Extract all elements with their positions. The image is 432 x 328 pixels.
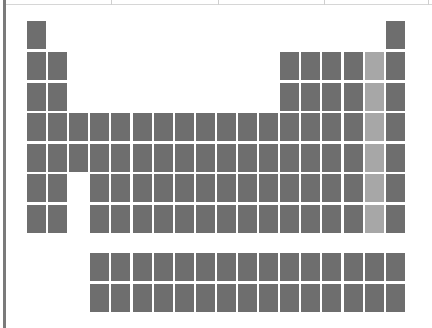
element-cell-p7-g16[interactable] [344, 205, 363, 233]
element-cell-p4-g18[interactable] [386, 113, 405, 141]
element-cell-p4-g8[interactable] [175, 113, 194, 141]
element-cell-p6-g13[interactable] [280, 174, 299, 202]
element-cell-p1-g1[interactable] [27, 21, 46, 49]
element-cell-lanthanides-2[interactable] [111, 253, 130, 281]
element-cell-p4-g10[interactable] [217, 113, 236, 141]
element-cell-p7-g10[interactable] [217, 205, 236, 233]
element-cell-lanthanides-15[interactable] [386, 253, 405, 281]
element-cell-p7-g17[interactable] [365, 205, 384, 233]
element-cell-p4-g3[interactable] [69, 113, 88, 141]
element-cell-actinides-1[interactable] [90, 284, 109, 312]
element-cell-p6-g10[interactable] [217, 174, 236, 202]
element-cell-p5-g7[interactable] [154, 144, 173, 172]
element-cell-actinides-10[interactable] [280, 284, 299, 312]
element-cell-p2-g13[interactable] [280, 52, 299, 80]
element-cell-p7-g2[interactable] [48, 205, 67, 233]
element-cell-p4-g11[interactable] [238, 113, 257, 141]
element-cell-p5-g14[interactable] [301, 144, 320, 172]
element-cell-p7-g5[interactable] [111, 205, 130, 233]
element-cell-p5-g6[interactable] [133, 144, 152, 172]
element-cell-p7-g18[interactable] [386, 205, 405, 233]
element-cell-p4-g14[interactable] [301, 113, 320, 141]
element-cell-actinides-15[interactable] [386, 284, 405, 312]
element-cell-lanthanides-4[interactable] [154, 253, 173, 281]
element-cell-p7-g11[interactable] [238, 205, 257, 233]
element-cell-p1-g18[interactable] [386, 21, 405, 49]
element-cell-p3-g17[interactable] [365, 83, 384, 111]
element-cell-lanthanides-14[interactable] [365, 253, 384, 281]
element-cell-p5-g10[interactable] [217, 144, 236, 172]
element-cell-p4-g9[interactable] [196, 113, 215, 141]
element-cell-p2-g15[interactable] [322, 52, 341, 80]
element-cell-p4-g2[interactable] [48, 113, 67, 141]
element-cell-p6-g17[interactable] [365, 174, 384, 202]
element-cell-p6-g8[interactable] [175, 174, 194, 202]
element-cell-p6-g9[interactable] [196, 174, 215, 202]
element-cell-lanthanides-7[interactable] [217, 253, 236, 281]
element-cell-p3-g14[interactable] [301, 83, 320, 111]
element-cell-p7-g13[interactable] [280, 205, 299, 233]
element-cell-p6-g15[interactable] [322, 174, 341, 202]
element-cell-p7-g6[interactable] [133, 205, 152, 233]
element-cell-p6-g7[interactable] [154, 174, 173, 202]
element-cell-p2-g2[interactable] [48, 52, 67, 80]
element-cell-p5-g15[interactable] [322, 144, 341, 172]
element-cell-actinides-8[interactable] [238, 284, 257, 312]
element-cell-actinides-12[interactable] [322, 284, 341, 312]
element-cell-p6-g4[interactable] [90, 174, 109, 202]
element-cell-p6-g14[interactable] [301, 174, 320, 202]
element-cell-p2-g17[interactable] [365, 52, 384, 80]
element-cell-p3-g2[interactable] [48, 83, 67, 111]
element-cell-lanthanides-1[interactable] [90, 253, 109, 281]
element-cell-p7-g14[interactable] [301, 205, 320, 233]
element-cell-p3-g13[interactable] [280, 83, 299, 111]
element-cell-p5-g2[interactable] [48, 144, 67, 172]
element-cell-p5-g17[interactable] [365, 144, 384, 172]
element-cell-lanthanides-12[interactable] [322, 253, 341, 281]
element-cell-p4-g5[interactable] [111, 113, 130, 141]
element-cell-actinides-14[interactable] [365, 284, 384, 312]
element-cell-p5-g5[interactable] [111, 144, 130, 172]
element-cell-lanthanides-9[interactable] [259, 253, 278, 281]
element-cell-actinides-6[interactable] [196, 284, 215, 312]
element-cell-p7-g9[interactable] [196, 205, 215, 233]
element-cell-p7-g4[interactable] [90, 205, 109, 233]
element-cell-p3-g18[interactable] [386, 83, 405, 111]
element-cell-p2-g16[interactable] [344, 52, 363, 80]
element-cell-p5-g18[interactable] [386, 144, 405, 172]
element-cell-p6-g2[interactable] [48, 174, 67, 202]
element-cell-p7-g15[interactable] [322, 205, 341, 233]
element-cell-p7-g7[interactable] [154, 205, 173, 233]
element-cell-p7-g1[interactable] [27, 205, 46, 233]
element-cell-p2-g14[interactable] [301, 52, 320, 80]
element-cell-p4-g13[interactable] [280, 113, 299, 141]
element-cell-p5-g12[interactable] [259, 144, 278, 172]
element-cell-lanthanides-5[interactable] [175, 253, 194, 281]
element-cell-p4-g17[interactable] [365, 113, 384, 141]
element-cell-p6-g16[interactable] [344, 174, 363, 202]
element-cell-p4-g12[interactable] [259, 113, 278, 141]
element-cell-p5-g16[interactable] [344, 144, 363, 172]
element-cell-p5-g1[interactable] [27, 144, 46, 172]
element-cell-p3-g16[interactable] [344, 83, 363, 111]
element-cell-actinides-3[interactable] [133, 284, 152, 312]
element-cell-p7-g8[interactable] [175, 205, 194, 233]
element-cell-p6-g11[interactable] [238, 174, 257, 202]
element-cell-lanthanides-13[interactable] [344, 253, 363, 281]
element-cell-actinides-7[interactable] [217, 284, 236, 312]
element-cell-lanthanides-11[interactable] [301, 253, 320, 281]
element-cell-p5-g13[interactable] [280, 144, 299, 172]
element-cell-p4-g15[interactable] [322, 113, 341, 141]
element-cell-actinides-9[interactable] [259, 284, 278, 312]
element-cell-p5-g11[interactable] [238, 144, 257, 172]
element-cell-p5-g3[interactable] [69, 144, 88, 172]
element-cell-lanthanides-10[interactable] [280, 253, 299, 281]
element-cell-lanthanides-3[interactable] [133, 253, 152, 281]
element-cell-lanthanides-6[interactable] [196, 253, 215, 281]
element-cell-actinides-2[interactable] [111, 284, 130, 312]
element-cell-actinides-13[interactable] [344, 284, 363, 312]
element-cell-p3-g15[interactable] [322, 83, 341, 111]
element-cell-p4-g7[interactable] [154, 113, 173, 141]
element-cell-p6-g5[interactable] [111, 174, 130, 202]
element-cell-p2-g18[interactable] [386, 52, 405, 80]
